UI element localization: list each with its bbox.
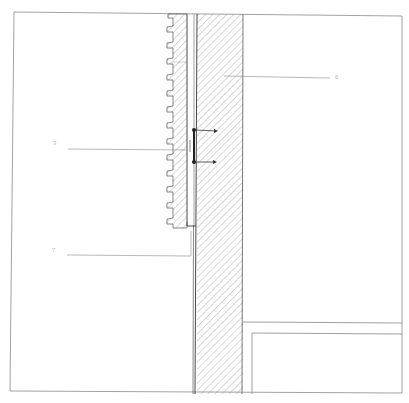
base-profile <box>187 222 196 226</box>
callout-label-6: 6 <box>335 74 338 80</box>
section-drawing <box>0 0 409 403</box>
floor-slab <box>243 322 402 394</box>
wall <box>193 14 243 394</box>
callout-label-3: 3 <box>53 140 56 146</box>
callout-label-7: 7 <box>52 247 55 253</box>
drawing-canvas: 6 3 7 <box>0 0 409 403</box>
air-gap <box>187 14 194 225</box>
cladding-panel <box>167 14 187 228</box>
